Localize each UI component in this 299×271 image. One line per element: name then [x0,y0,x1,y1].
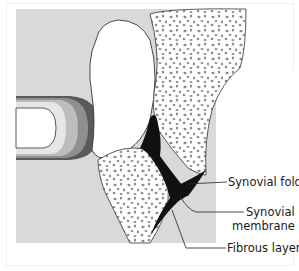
label-synovial-membrane-line1: Synovial [246,205,295,219]
joint-diagram: Synovial fold Synovial membrane Fibrous … [0,0,299,271]
label-synovial-membrane-line2: membrane [232,219,295,233]
label-synovial-fold: Synovial fold [228,175,299,189]
layered-tissue-bands [16,96,100,160]
label-fibrous-layer: Fibrous layer [227,241,299,255]
